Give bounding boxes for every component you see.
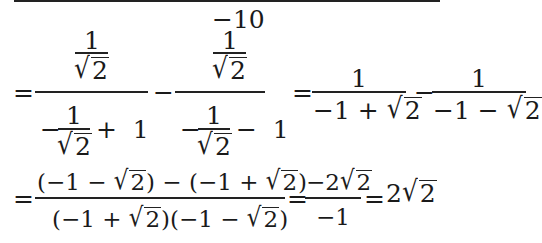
fraction-e-num: (−1 − √2) − (−1 + √2) <box>37 170 307 194</box>
fraction-b-main-bar <box>175 91 265 93</box>
fraction-f-den: −1 <box>305 206 361 229</box>
fraction-f-bar <box>305 197 361 199</box>
fraction-d-den: −1 − √2 <box>433 97 542 123</box>
fraction-b-den-inner-sqrt: √2 <box>197 133 232 159</box>
fraction-f-num: −2√2 <box>306 170 372 194</box>
fraction-e-den: (−1 + √2)(−1 − √2) <box>52 207 288 231</box>
equals-sign: = <box>13 186 34 211</box>
minus-sign: − <box>153 80 174 105</box>
fraction-e-bar <box>35 197 285 199</box>
fraction-a-den-inner-num: 1 <box>62 103 86 128</box>
top-rule <box>14 0 440 2</box>
fraction-d-num: 1 <box>432 66 526 91</box>
fraction-c-den: −1 + √2 <box>313 97 422 123</box>
fraction-a-num-num: 1 <box>80 28 104 53</box>
fraction-b-num-num: 1 <box>218 28 242 53</box>
fraction-b-num-sqrt: √2 <box>212 57 247 83</box>
fraction-b-den-tail: − 1 <box>236 117 289 142</box>
equals-sign: = <box>364 186 385 211</box>
fraction-a-den-tail: + 1 <box>96 117 149 142</box>
equals-sign: = <box>292 80 313 105</box>
fraction-a-num-sqrt: √2 <box>74 57 109 83</box>
final-result: 2√2 <box>386 180 437 206</box>
fraction-a-den-inner-sqrt: √2 <box>57 133 92 159</box>
fraction-b-den-inner-num: 1 <box>202 103 226 128</box>
equals-sign: = <box>13 80 34 105</box>
fraction-a-main-bar <box>35 91 148 93</box>
fraction-c-num: 1 <box>312 66 406 91</box>
